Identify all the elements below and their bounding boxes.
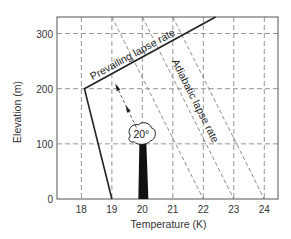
y-axis-label: Elevation (m) [11, 81, 23, 143]
prevailing-lapse-rate-label: Prevailing lapse rate [88, 26, 177, 82]
y-tick-label: 200 [36, 84, 53, 95]
x-tick-label: 23 [228, 204, 240, 215]
x-tick-label: 22 [198, 204, 210, 215]
x-tick-label: 21 [167, 204, 179, 215]
y-tick-label: 0 [47, 194, 53, 205]
plume-temperature-label: 20° [133, 128, 149, 140]
x-axis-label: Temperature (K) [131, 218, 207, 230]
plot-frame [57, 17, 278, 199]
adiabatic-line [173, 17, 264, 199]
arrow-head-icon [115, 84, 120, 92]
y-tick-label: 100 [36, 139, 53, 150]
adiabatic-lines [112, 17, 264, 199]
smoke-plume [138, 144, 148, 199]
arrow-head-icon [126, 105, 131, 113]
adiabatic-lapse-rate-label: Adiabatic lapse rate [170, 57, 222, 145]
x-tick-label: 19 [106, 204, 118, 215]
x-tick-label: 20 [137, 204, 149, 215]
y-tick-labels: 0100200300 [36, 29, 53, 205]
grid-lines [57, 17, 278, 199]
x-tick-labels: 18192021222324 [76, 204, 270, 215]
y-tick-label: 300 [36, 29, 53, 40]
x-tick-label: 24 [259, 204, 271, 215]
chart: 18192021222324 0100200300 Temperature (K… [0, 0, 291, 239]
parcel-path-group [115, 84, 136, 128]
x-tick-label: 18 [76, 204, 88, 215]
